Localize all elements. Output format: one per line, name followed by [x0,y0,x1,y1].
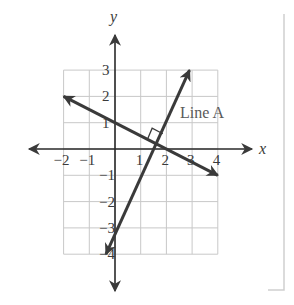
x-axis-label: x [258,140,266,157]
coordinate-plane: x y −2−11234 321−1−2−3−4 Line A [0,0,294,305]
x-tick-label: −2 [54,152,70,168]
y-tick-label: 3 [102,62,110,78]
y-tick-labels: 321−1−2−3−4 [99,62,115,262]
y-tick-label: −3 [99,220,115,236]
line-a-label: Line A [180,104,224,121]
line-a [106,70,190,254]
y-axis-label: y [108,8,118,26]
y-tick-label: −1 [99,167,115,183]
page-frame-divider [268,14,284,290]
x-tick-label: 1 [136,152,144,168]
x-tick-label: 4 [213,152,221,168]
x-tick-label: −1 [79,152,95,168]
y-tick-label: −2 [99,194,115,210]
y-tick-label: 2 [102,88,110,104]
x-tick-label: 2 [161,152,169,168]
